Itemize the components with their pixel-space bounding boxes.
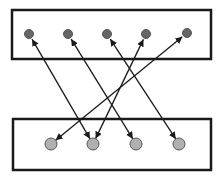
- top-node: [142, 30, 151, 39]
- bottom-node: [130, 138, 142, 150]
- bipartite-diagram: [0, 0, 223, 182]
- bottom-node: [173, 138, 185, 150]
- top-node: [64, 30, 73, 39]
- edge-arrow: [32, 39, 90, 139]
- bottom-node: [45, 138, 57, 150]
- bottom-node: [87, 138, 99, 150]
- top-node: [183, 29, 192, 38]
- edges-layer: [32, 37, 182, 140]
- top-node: [25, 30, 34, 39]
- nodes-layer: [25, 29, 192, 151]
- top-node: [103, 30, 112, 39]
